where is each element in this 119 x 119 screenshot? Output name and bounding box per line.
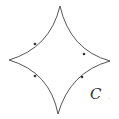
curve-label: C	[90, 85, 101, 103]
direction-arrow-icon	[83, 53, 86, 56]
direction-arrow-icon	[34, 43, 37, 46]
direction-arrow-icon	[81, 76, 84, 79]
direction-arrow-icon	[34, 75, 37, 78]
trailing-mark: .	[108, 92, 111, 101]
